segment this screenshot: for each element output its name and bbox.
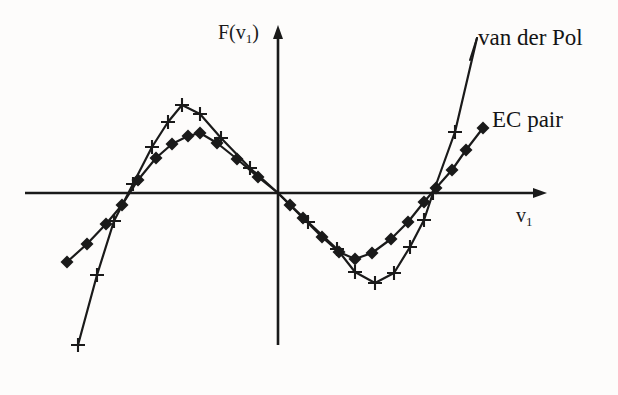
van-der-pol-markers [71,98,462,352]
plot-canvas [0,0,618,395]
ec-pair-curve [67,128,483,262]
series-label-van-der-pol: van der Pol [478,26,583,49]
ec-pair-markers [61,122,490,269]
van-der-pol-ec-pair-figure: F(v1) v1 van der Pol EC pair [0,0,618,395]
series-van-der-pol [71,38,477,352]
series-ec-pair [61,122,490,269]
y-axis-label-subscript: 1 [246,31,253,46]
x-axis-label-subscript: 1 [526,214,533,229]
x-axis-label: v1 [516,205,533,225]
axis-lines [25,38,534,345]
y-axis-label-main: F(v [218,21,246,43]
y-axis-label-close: ) [252,21,259,43]
x-axis-label-main: v [516,204,526,226]
series-label-ec-pair: EC pair [492,108,563,131]
y-axis-label: F(v1) [218,22,259,42]
